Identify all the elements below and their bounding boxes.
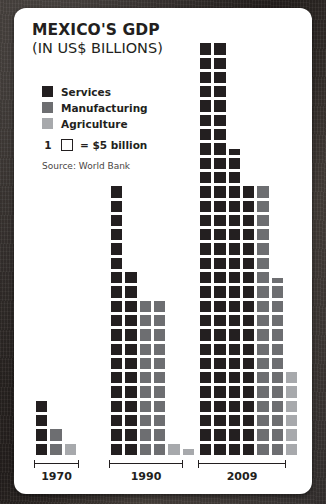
pictogram-square	[111, 429, 122, 440]
pictogram-square	[200, 344, 211, 355]
pictogram-square	[257, 386, 268, 397]
pictogram-square	[140, 301, 151, 312]
pictogram-square	[229, 229, 240, 240]
pictogram-square	[214, 415, 225, 426]
pictogram-square	[200, 301, 211, 312]
pictogram-square	[243, 215, 254, 226]
pictogram-square	[214, 115, 225, 126]
axis-tick-left	[109, 460, 110, 468]
pictogram-square	[200, 58, 211, 69]
pictogram-square	[257, 301, 268, 312]
pictogram-square	[257, 272, 268, 283]
axis-tick-right	[78, 460, 79, 468]
axis-label-2009: 2009	[198, 470, 286, 483]
pictogram-square	[286, 415, 297, 426]
pictogram-square	[229, 243, 240, 254]
pictogram-square	[286, 444, 297, 455]
pictogram-square	[125, 286, 136, 297]
pictogram-square	[125, 415, 136, 426]
pictogram-square	[229, 415, 240, 426]
pictogram-square	[111, 186, 122, 197]
pictogram-square	[243, 186, 254, 197]
pictogram-square	[243, 258, 254, 269]
pictogram-square	[243, 372, 254, 383]
pictogram-square	[243, 243, 254, 254]
pictogram-square	[200, 386, 211, 397]
pictogram-square	[140, 386, 151, 397]
pictogram-square	[111, 401, 122, 412]
pictogram-square	[200, 115, 211, 126]
pictogram-square	[140, 344, 151, 355]
pictogram-square	[200, 186, 211, 197]
pictogram-square	[125, 315, 136, 326]
pictogram-square	[214, 172, 225, 183]
pictogram-square	[229, 286, 240, 297]
pictogram-square	[214, 301, 225, 312]
axis-group-2009: 2009	[198, 463, 286, 493]
pictogram-square	[214, 258, 225, 269]
pictogram-square	[243, 315, 254, 326]
pictogram-square	[140, 401, 151, 412]
pictogram-square	[257, 229, 268, 240]
pictogram-square	[154, 358, 165, 369]
pictogram-square	[154, 315, 165, 326]
axis-tick-right	[182, 460, 183, 468]
pictogram-square	[229, 158, 240, 169]
axis-line	[198, 463, 286, 464]
pictogram-square	[257, 258, 268, 269]
pictogram-square	[50, 444, 61, 455]
pictogram-square	[125, 444, 136, 455]
pictogram-square	[257, 186, 268, 197]
pictogram-square	[243, 401, 254, 412]
pictogram-square	[229, 201, 240, 212]
pictogram-square	[229, 344, 240, 355]
axis-group-1990: 1990	[109, 463, 183, 493]
axis-group-1970: 1970	[34, 463, 79, 493]
pictogram-square	[214, 72, 225, 83]
pictogram-square	[286, 386, 297, 397]
pictogram-square	[272, 444, 283, 455]
pictogram-square	[125, 372, 136, 383]
pictogram-square	[214, 86, 225, 97]
pictogram-square	[257, 286, 268, 297]
pictogram-square	[243, 415, 254, 426]
pictogram-square	[111, 329, 122, 340]
pictogram-square	[125, 358, 136, 369]
pictogram-square	[257, 215, 268, 226]
pictogram-square	[272, 301, 283, 312]
pictogram-square	[243, 229, 254, 240]
pictogram-square-partial	[229, 149, 240, 155]
pictogram-square	[229, 429, 240, 440]
pictogram-square	[200, 143, 211, 154]
pictogram-square	[243, 329, 254, 340]
pictogram-square	[229, 172, 240, 183]
pictogram-square	[200, 258, 211, 269]
pictogram-square	[214, 358, 225, 369]
pictogram-square	[125, 344, 136, 355]
pictogram-square	[257, 358, 268, 369]
pictogram-square	[36, 444, 47, 455]
pictogram-square	[272, 372, 283, 383]
pictogram-square	[111, 258, 122, 269]
pictogram-square	[229, 386, 240, 397]
axis-tick-left	[34, 460, 35, 468]
pictogram-square	[140, 358, 151, 369]
pictogram-square	[257, 201, 268, 212]
pictogram-square	[214, 286, 225, 297]
pictogram-square	[257, 329, 268, 340]
pictogram-square	[154, 329, 165, 340]
pictogram-square	[229, 272, 240, 283]
pictogram-square	[125, 401, 136, 412]
pictogram-square	[200, 315, 211, 326]
pictogram-square	[111, 215, 122, 226]
pictogram-square	[257, 429, 268, 440]
pictogram-square	[200, 243, 211, 254]
pictogram-square	[229, 186, 240, 197]
pictogram-square	[229, 401, 240, 412]
pictogram-square	[229, 215, 240, 226]
pictogram-square	[257, 444, 268, 455]
pictogram-square	[140, 315, 151, 326]
axis-line	[109, 463, 183, 464]
pictogram-square	[140, 444, 151, 455]
pictogram-square	[214, 429, 225, 440]
